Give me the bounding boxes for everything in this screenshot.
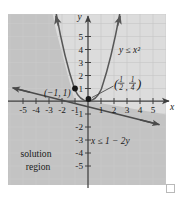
point-marker-minus1-1	[72, 86, 78, 92]
inequality-graph-figure: y x -5 -4 -3 -2 -1 1 2 3 4 5 5 4 3 2 1 -…	[0, 0, 182, 200]
point-marker-half-quarter	[86, 96, 92, 102]
solution-region-label-line1: solution	[21, 148, 52, 159]
parabola-inequality-label: y ≤ x²	[118, 45, 140, 55]
x-tick-4: 4	[138, 105, 143, 115]
y-tick--4: -4	[75, 148, 83, 158]
x-tick-5: 5	[151, 105, 156, 115]
x-tick-1: 1	[99, 105, 104, 115]
x-tick--4: -4	[32, 105, 40, 115]
y-tick--1: -1	[75, 109, 83, 119]
paren-close: )	[136, 76, 141, 91]
frac-comma: ,	[126, 82, 128, 92]
frac-quarter-numerator: 1	[131, 75, 135, 84]
x-axis-label: x	[169, 102, 175, 112]
x-tick--2: -2	[58, 105, 66, 115]
y-tick-1: 1	[78, 84, 83, 94]
y-tick-4: 4	[78, 45, 83, 55]
frac-quarter-denominator: 4	[131, 83, 135, 92]
x-tick-2: 2	[112, 105, 117, 115]
x-tick-3: 3	[125, 105, 130, 115]
y-tick--2: -2	[75, 122, 83, 132]
y-tick-5: 5	[78, 32, 83, 42]
frac-half-denominator: 2	[119, 83, 123, 92]
y-tick--3: -3	[75, 135, 83, 145]
x-tick--3: -3	[45, 105, 53, 115]
y-axis-label: y	[76, 12, 82, 22]
frac-half-numerator: 1	[119, 75, 123, 84]
line-inequality-label: x ≤ 1 − 2y	[90, 136, 130, 146]
x-tick--5: -5	[19, 105, 27, 115]
y-tick-3: 3	[78, 58, 83, 68]
corner-marker-box	[166, 184, 175, 193]
y-tick--5: -5	[75, 161, 83, 171]
y-tick-2: 2	[78, 71, 83, 81]
solution-region-label-line2: region	[26, 161, 51, 172]
point-label-minus1-1: (−1, 1)	[44, 88, 71, 99]
